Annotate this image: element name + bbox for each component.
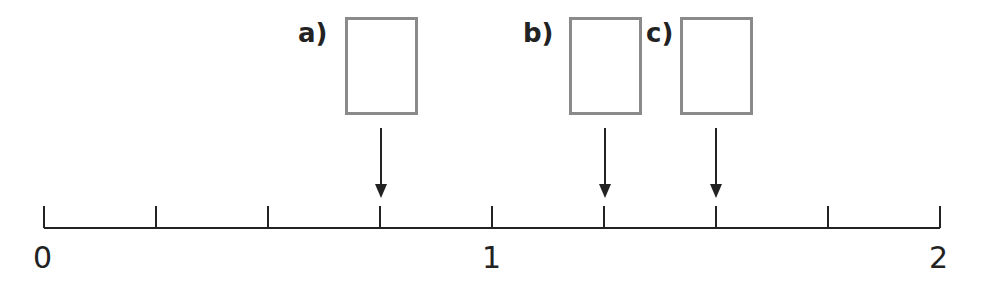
tick-label-2: 2 <box>929 243 948 273</box>
tick-marks <box>44 206 940 228</box>
label-c: c) <box>646 20 673 46</box>
tick-label-0: 0 <box>33 243 52 273</box>
answer-box-a[interactable] <box>345 17 418 115</box>
arrow-down-icon <box>375 128 387 198</box>
label-a: a) <box>298 20 327 46</box>
answer-box-b[interactable] <box>569 17 642 115</box>
label-b: b) <box>523 20 554 46</box>
answer-box-c[interactable] <box>680 17 753 115</box>
tick-label-1: 1 <box>482 243 501 273</box>
arrow-down-icon <box>599 128 611 198</box>
arrow-down-icon <box>710 128 722 198</box>
